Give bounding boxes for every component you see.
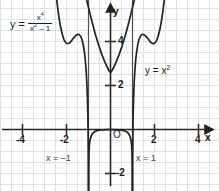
x-axis-label: x bbox=[205, 133, 211, 143]
x-tick-label-4: 4 bbox=[195, 135, 201, 145]
y-tick-label-4: 4 bbox=[118, 36, 124, 46]
curve-label-rational: y = x4 x2 – 1 bbox=[10, 14, 52, 33]
rational-label-lead: y = bbox=[10, 18, 25, 30]
asymptote-label-right: x = 1 bbox=[136, 154, 156, 163]
graph-figure: y = x4 x2 – 1 y = x2 x = –1 x = 1 y x O … bbox=[0, 0, 219, 191]
origin-label: O bbox=[113, 130, 121, 140]
y-axis-label: y bbox=[113, 7, 119, 17]
rational-denominator: x2 – 1 bbox=[28, 24, 52, 33]
asymptote-label-left: x = –1 bbox=[46, 154, 71, 163]
x-tick-label-2: 2 bbox=[151, 135, 157, 145]
rational-fraction: x4 x2 – 1 bbox=[28, 14, 52, 33]
x-tick-label-neg2: -2 bbox=[60, 135, 69, 145]
curve-label-parabola: y = x2 bbox=[145, 66, 170, 76]
y-tick-label-2: 2 bbox=[118, 80, 124, 90]
y-tick-label-neg2: -2 bbox=[116, 168, 125, 178]
x-tick-label-neg4: -4 bbox=[16, 135, 25, 145]
